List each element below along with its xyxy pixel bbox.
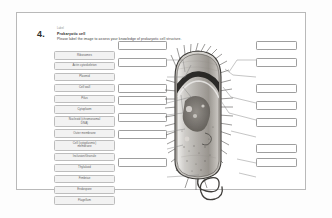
question-type-label: Label (57, 27, 64, 30)
label-pill-text: Cell wall (78, 86, 91, 89)
label-pill-plasmid[interactable]: Plasmid (54, 73, 115, 82)
label-pill-inclusion-granule[interactable]: Inclusion/Granule (54, 153, 115, 162)
label-pill-thylakoid[interactable]: Thylakoid (54, 164, 115, 173)
label-pill-text: Thylakoid (77, 166, 92, 169)
label-pill-text: Cell (cytoplasmic) membrane (72, 142, 98, 149)
label-pill-nucleoid-dna[interactable]: Nucleoid (chromosomal DNA) (54, 116, 115, 127)
label-pill-cell-cytoplasmic-membrane[interactable]: Cell (cytoplasmic) membrane (54, 140, 115, 151)
label-pill-text: Pilus (80, 97, 89, 100)
label-pill-text: Ribosomes (76, 54, 93, 57)
prokaryotic-cell-diagram (165, 43, 249, 201)
question-number: 4. (37, 29, 45, 39)
label-pill-flagellum[interactable]: Flagellum (54, 196, 115, 205)
label-pill-text: Outer membrane (72, 132, 97, 135)
label-pill-cell-wall[interactable]: Cell wall (54, 84, 115, 93)
drop-zone-left-5[interactable] (118, 113, 167, 122)
label-pill-text: Endospore (76, 188, 92, 191)
drop-zone-left-7[interactable] (118, 158, 167, 167)
drop-zone-right-5[interactable] (256, 118, 297, 127)
drop-zone-right-4[interactable] (256, 101, 297, 110)
question-title: Prokaryotic cell (57, 32, 85, 36)
label-pill-text: Nucleoid (chromosomal DNA) (68, 118, 101, 125)
label-pill-cytoplasm[interactable]: Cytoplasm (54, 105, 115, 114)
drop-zone-right-3[interactable] (256, 84, 297, 93)
label-pill-text: Flagellum (77, 199, 92, 202)
label-pill-endospore[interactable]: Endospore (54, 186, 115, 195)
cell-micrograph-svg (165, 43, 249, 201)
label-pill-outer-membrane[interactable]: Outer membrane (54, 129, 115, 138)
worksheet-page: 4. Label Prokaryotic cell Please label t… (0, 0, 332, 218)
label-pill-text: Inclusion/Granule (72, 155, 97, 158)
label-pill-text: Plasmid (78, 75, 91, 78)
drop-zone-left-1[interactable] (118, 41, 167, 50)
label-pill-pilus[interactable]: Pilus (54, 95, 115, 104)
label-pill-fimbriae[interactable]: Fimbriae (54, 175, 115, 184)
label-pill-actin-cytoskeleton[interactable]: Actin cytoskeleton (54, 62, 115, 71)
drop-zone-left-4[interactable] (118, 96, 167, 105)
label-pill-ribosomes[interactable]: Ribosomes (54, 51, 115, 60)
question-card: 4. Label Prokaryotic cell Please label t… (16, 12, 306, 190)
drop-zone-right-2[interactable] (256, 58, 297, 67)
drop-zone-left-2[interactable] (118, 58, 167, 67)
label-pill-text: Cytoplasm (76, 108, 92, 111)
drop-zone-right-6[interactable] (256, 144, 297, 153)
drop-zone-left-3[interactable] (118, 84, 167, 93)
drop-zone-left-6[interactable] (118, 130, 167, 139)
draggable-label-bank: RibosomesActin cytoskeletonPlasmidCell w… (54, 51, 115, 207)
flagellum (198, 178, 223, 200)
label-pill-text: Actin cytoskeleton (71, 64, 97, 67)
drop-zone-right-7[interactable] (256, 158, 297, 167)
drop-zone-right-1[interactable] (256, 41, 297, 50)
label-pill-text: Fimbriae (78, 177, 92, 180)
